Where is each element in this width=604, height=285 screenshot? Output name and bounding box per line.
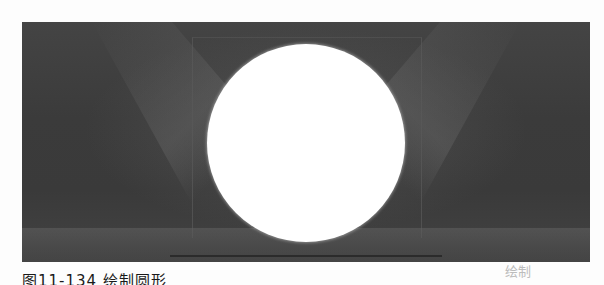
figure-caption: 图11-134 绘制圆形 [22,272,167,285]
document-page: 图11-134 绘制圆形 绘制 [0,0,604,285]
bottom-line [170,255,442,257]
faded-bleedthrough-text: 绘制 [505,264,531,280]
white-circle-shape [207,44,405,242]
figure-image [22,22,590,262]
